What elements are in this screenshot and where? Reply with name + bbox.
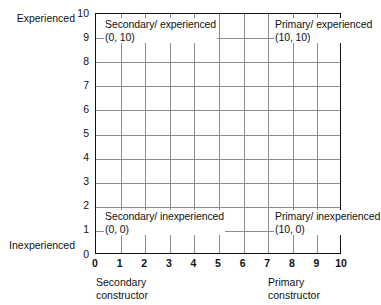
x-tick-10: 10 [330,258,352,269]
x-axis-right-caption-line2: constructor [268,289,320,302]
gridline-y-8 [96,62,340,63]
quadrant-label-secondary-experienced: Secondary/ experienced (0, 10) [104,18,217,43]
quadrant-tr-line1: Primary/ [275,18,313,30]
x-axis-left-caption-line2: constructor [96,289,148,302]
y-tick-10: 10 [67,8,89,19]
y-tick-6: 6 [67,104,89,115]
y-tick-5: 5 [67,128,89,139]
gridline-x-6 [244,14,245,253]
quadrant-label-primary-experienced: Primary/ experienced (10, 10) [274,18,373,43]
x-tick-7: 7 [256,258,278,269]
gridline-y-5 [96,135,340,136]
gridline-y-6 [96,110,340,111]
quadrant-tr-coord: (10, 10) [275,31,372,44]
quadrant-label-primary-inexperienced: Primary/ inexperienced (10, 0) [274,210,381,235]
y-tick-2: 2 [67,200,89,211]
gridline-y-3 [96,183,340,184]
x-tick-3: 3 [158,258,180,269]
quadrant-br-coord: (10, 0) [275,223,380,236]
quadrant-br-line2: inexperienced [316,210,380,222]
quadrant-tl-line1: Secondary/ [105,18,157,30]
quadrant-bl-coord: (0, 0) [105,223,224,236]
plot-area: Secondary/ experienced (0, 10) Primary/ … [95,13,341,254]
y-tick-7: 7 [67,80,89,91]
gridline-y-4 [96,159,340,160]
y-tick-3: 3 [67,176,89,187]
x-axis-left-caption: Secondary constructor [96,276,148,301]
x-axis-right-caption-line1: Primary [268,276,320,289]
x-tick-9: 9 [305,258,327,269]
y-tick-4: 4 [67,152,89,163]
x-tick-4: 4 [182,258,204,269]
x-tick-1: 1 [109,258,131,269]
quadrant-br-line1: Primary/ [275,210,313,222]
x-axis-left-caption-line1: Secondary [96,276,148,289]
quadrant-tr-line2: experienced [316,18,372,30]
x-tick-5: 5 [207,258,229,269]
quadrant-tl-line2: experienced [160,18,216,30]
quadrant-tl-coord: (0, 10) [105,31,216,44]
y-tick-9: 9 [67,32,89,43]
quadrant-label-secondary-inexperienced: Secondary/ inexperienced (0, 0) [104,210,225,235]
gridline-y-7 [96,86,340,87]
x-tick-6: 6 [232,258,254,269]
gridline-y-2 [96,207,340,208]
x-tick-2: 2 [133,258,155,269]
quadrant-bl-line1: Secondary/ [105,210,157,222]
x-tick-8: 8 [281,258,303,269]
y-tick-1: 1 [67,224,89,235]
quadrant-bl-line2: inexperienced [160,210,224,222]
x-tick-0: 0 [84,258,106,269]
y-axis-low-label: Inexperienced [9,240,75,251]
x-axis-right-caption: Primary constructor [268,276,320,301]
y-tick-8: 8 [67,56,89,67]
gridline-x-7 [268,14,269,253]
